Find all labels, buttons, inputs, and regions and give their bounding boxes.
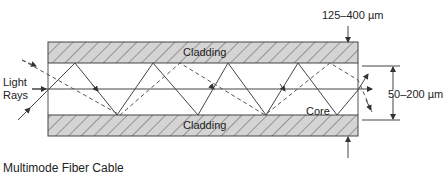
cladding-bottom-label: Cladding: [183, 119, 226, 131]
light-rays-label-line2: Rays: [3, 89, 28, 101]
core-diameter-label: 50–200 µm: [388, 88, 443, 100]
diagram-caption: Multimode Fiber Cable: [3, 162, 124, 174]
core-label: Core: [306, 105, 330, 117]
fiber-diagram: [0, 0, 444, 176]
light-rays-label-line1: Light: [3, 76, 27, 88]
outer-diameter-label: 125–400 µm: [322, 9, 383, 21]
cladding-top-label: Cladding: [183, 46, 226, 58]
